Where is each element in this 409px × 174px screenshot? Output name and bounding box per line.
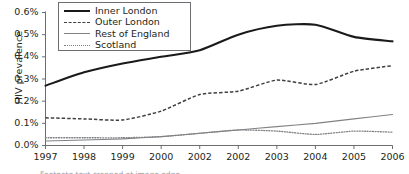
legend-item[interactable]: Inner London	[59, 5, 190, 17]
x-tick-label: 1997	[26, 151, 66, 162]
legend-item[interactable]: Scotland	[59, 39, 190, 51]
x-tick-label: 2006	[373, 151, 409, 162]
x-tick-label: 1998	[64, 151, 104, 162]
x-tick-label: 1999	[103, 151, 143, 162]
clipped-footer-text: Footnote text cropped at image edge	[40, 171, 396, 174]
legend-item[interactable]: Outer London	[59, 16, 190, 28]
legend-item[interactable]: Rest of England	[59, 28, 190, 40]
x-tick-label: 2005	[334, 151, 374, 162]
legend-item-label: Rest of England	[91, 28, 169, 39]
x-tick-label: 2002	[180, 151, 220, 162]
series-line-scotland	[46, 130, 393, 138]
legend-swatch-solid-thick-icon	[63, 5, 91, 16]
legend-item-label: Inner London	[91, 5, 157, 16]
legend-item-label: Scotland	[91, 39, 136, 50]
series-line-outer-london	[46, 66, 393, 121]
legend-swatch-dotted-icon	[63, 39, 91, 50]
legend-swatch-solid-thin-icon	[63, 28, 91, 39]
chart-legend: Inner LondonOuter LondonRest of EnglandS…	[58, 2, 191, 51]
series-line-rest-of-england	[46, 114, 393, 141]
x-tick-label: 2004	[295, 151, 335, 162]
legend-item-label: Outer London	[91, 16, 160, 27]
x-tick-label: 2000	[141, 151, 181, 162]
x-tick-label: 2002	[218, 151, 258, 162]
x-tick-label: 2003	[257, 151, 297, 162]
legend-swatch-dashed-icon	[63, 16, 91, 27]
